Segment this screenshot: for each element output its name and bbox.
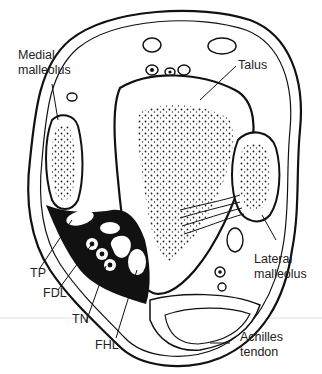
- label-tp: TP: [30, 266, 46, 281]
- label-medial-malleolus: Medial malleolus: [18, 48, 71, 78]
- label-fhl: FHL: [95, 338, 119, 353]
- label-lateral-malleolus: Lateral malleolus: [254, 252, 307, 282]
- ankle-cross-section-diagram: Medial malleolus Talus Lateral malleolus…: [0, 0, 322, 374]
- label-fdl: FDL: [43, 286, 67, 301]
- label-tn: TN: [72, 312, 89, 327]
- label-achilles-tendon: Achilles tendon: [240, 330, 283, 360]
- label-talus: Talus: [238, 58, 267, 73]
